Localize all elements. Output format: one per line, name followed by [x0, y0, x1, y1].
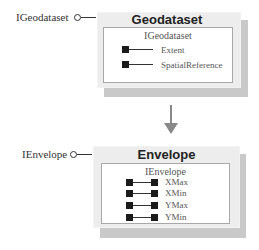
geodataset-title: Geodataset	[97, 12, 237, 27]
property-extent: Extent	[161, 45, 185, 55]
property-ymin: YMin	[165, 212, 187, 222]
property-write-icon	[151, 179, 158, 186]
property-line	[133, 205, 151, 206]
envelope-title: Envelope	[93, 147, 240, 162]
property-write-icon	[151, 202, 158, 209]
property-read-icon	[126, 202, 133, 209]
arrow-down-icon	[160, 103, 182, 136]
geodataset-interface-label: IGeodataset	[16, 11, 69, 23]
property-read-icon	[126, 179, 133, 186]
property-line	[129, 64, 153, 65]
property-line	[129, 49, 153, 50]
envelope-inner-interface: IEnvelope	[101, 166, 230, 177]
property-read-icon	[122, 46, 129, 53]
property-ymax: YMax	[165, 200, 188, 210]
property-xmin: XMin	[165, 188, 187, 198]
property-line	[133, 182, 151, 183]
property-spatialreference: SpatialReference	[161, 60, 222, 70]
lollipop-line	[81, 17, 96, 18]
property-write-icon	[151, 190, 158, 197]
lollipop-line	[77, 154, 92, 155]
geodataset-inner-interface: IGeodataset	[103, 30, 233, 41]
property-read-icon	[122, 61, 129, 68]
property-read-icon	[126, 190, 133, 197]
property-write-icon	[151, 214, 158, 221]
property-read-icon	[126, 214, 133, 221]
lollipop-circle-icon	[74, 14, 81, 21]
envelope-interface-label: IEnvelope	[22, 148, 67, 160]
lollipop-circle-icon	[70, 151, 77, 158]
property-line	[133, 193, 151, 194]
property-line	[133, 217, 151, 218]
property-xmax: XMax	[165, 177, 188, 187]
